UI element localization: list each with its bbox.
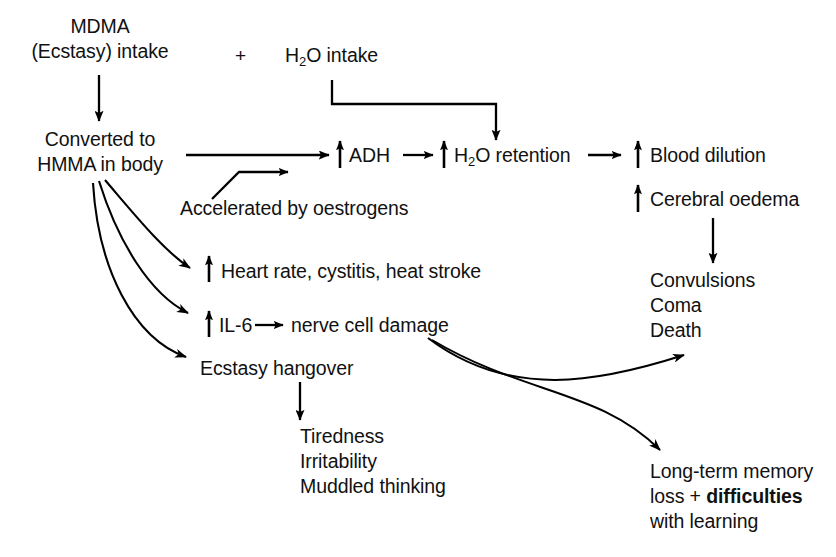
node-memory-line2-b: difficulties [706,485,802,507]
node-mdma-intake: MDMA(Ecstasy) intake [14,14,186,64]
node-converted-hmma: Converted toHMMA in body [14,127,186,177]
node-irritability: Irritability [300,449,377,474]
node-coma: Coma [650,293,702,318]
node-memory-line1: Long-term memory [650,460,813,482]
node-plus-sign: + [235,43,246,68]
node-memory-line3: with learning [650,510,758,532]
node-long-term-memory-loss: Long-term memoryloss + difficultieswith … [650,459,813,534]
node-h2o-retention-rest: O retention [475,144,570,166]
node-tiredness: Tiredness [300,424,384,449]
edge-h2o-intake-to-retention [332,80,496,140]
node-ecstasy-hangover: Ecstasy hangover [200,356,353,381]
node-blood-dilution: Blood dilution [650,143,766,168]
node-h2o-intake-h: H [285,44,299,66]
node-h2o-intake: H2O intake [285,43,378,74]
edge-hmma-to-heart-rate [105,180,190,268]
node-mdma-line2: (Ecstasy) intake [31,40,168,62]
edge-nerve-damage-to-death [428,338,684,380]
node-muddled-thinking: Muddled thinking [300,474,446,499]
edge-oestrogens-to-adh [212,172,288,199]
node-convulsions: Convulsions [650,268,755,293]
node-converted-line2: HMMA in body [37,153,163,175]
diagram-canvas: MDMA(Ecstasy) intake + H2O intake Conver… [0,0,836,557]
edge-hmma-to-il6 [99,181,188,313]
node-nerve-cell-damage: nerve cell damage [291,313,449,338]
node-adh: ADH [349,143,390,168]
node-memory-line2-a: loss + [650,485,706,507]
node-accelerated-by-oestrogens: Accelerated by oestrogens [180,196,408,221]
node-il6: IL-6 [219,313,252,338]
edge-nerve-damage-to-memory [432,340,660,450]
edge-hmma-to-hangover [93,183,186,357]
node-death: Death [650,318,702,343]
node-converted-line1: Converted to [45,128,155,150]
node-h2o-retention: H2O retention [454,143,571,174]
node-cerebral-oedema: Cerebral oedema [650,187,799,212]
node-heart-rate-cystitis-heat-stroke: Heart rate, cystitis, heat stroke [221,259,481,284]
node-mdma-line1: MDMA [70,15,129,37]
node-h2o-intake-rest: O intake [306,44,378,66]
node-h2o-retention-h: H [454,144,468,166]
